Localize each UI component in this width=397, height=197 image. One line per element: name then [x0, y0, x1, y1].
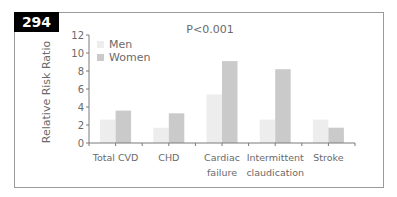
bar-women-0 — [116, 111, 132, 143]
y-tick-label: 10 — [71, 48, 84, 59]
x-tick-label: Stroke — [313, 152, 343, 163]
x-tick-label: CHD — [158, 152, 179, 163]
bar-men-4 — [313, 120, 329, 143]
bar-men-3 — [260, 120, 276, 143]
legend-swatch-women — [97, 54, 104, 61]
bar-men-2 — [207, 94, 223, 143]
bar-women-2 — [222, 61, 238, 143]
y-tick-label: 0 — [78, 138, 84, 149]
x-tick-label: claudication — [246, 167, 304, 178]
p-value-annotation: P<0.001 — [186, 23, 233, 36]
y-tick-label: 8 — [78, 66, 84, 77]
x-tick-label: Intermittent — [247, 152, 304, 163]
bar-men-0 — [100, 120, 116, 143]
y-tick-label: 6 — [78, 84, 84, 95]
bar-men-1 — [153, 128, 169, 143]
y-tick-label: 4 — [78, 102, 84, 113]
x-tick-label: Cardiac — [204, 152, 240, 163]
bar-women-1 — [169, 113, 185, 143]
bar-women-3 — [275, 69, 291, 143]
x-tick-label: Total CVD — [92, 152, 139, 163]
legend-label-women: Women — [109, 51, 150, 64]
x-tick-label: failure — [207, 167, 237, 178]
y-axis-label: Relative Risk Ratio — [40, 41, 53, 144]
y-tick-label: 12 — [71, 30, 84, 41]
y-tick-label: 2 — [78, 120, 84, 131]
legend-label-men: Men — [109, 38, 132, 51]
legend-swatch-men — [97, 41, 104, 48]
bar-chart: Total CVDCHDCardiacfailureIntermittentcl… — [0, 0, 397, 197]
bar-women-4 — [328, 128, 344, 143]
